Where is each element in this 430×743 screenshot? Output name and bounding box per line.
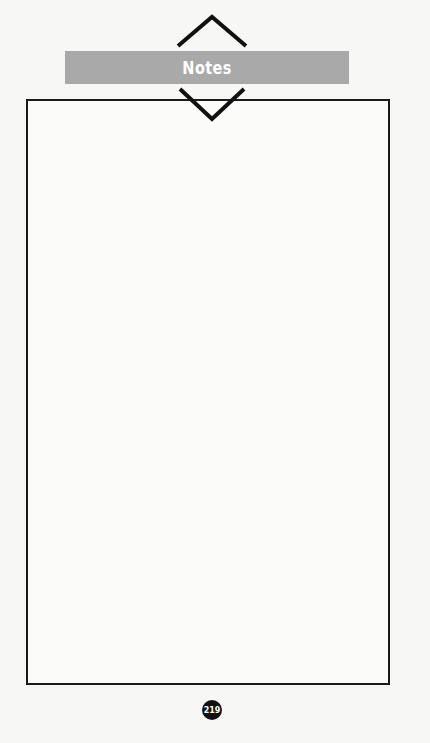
chevron-up-icon: [178, 17, 246, 46]
page-number: 219: [204, 706, 221, 715]
notes-header-banner: Notes: [65, 51, 349, 84]
page-title: Notes: [182, 58, 231, 78]
page-number-badge: 219: [202, 700, 222, 720]
notes-box: [26, 99, 390, 685]
chevron-down-icon: [180, 89, 244, 119]
